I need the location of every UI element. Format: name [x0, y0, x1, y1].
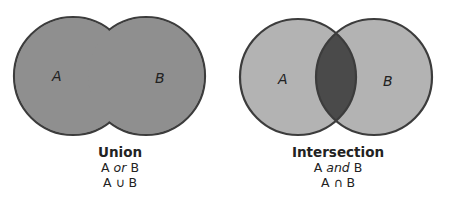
- union-phrase-left: A: [101, 160, 110, 175]
- intersection-phrase-connector: and: [326, 160, 350, 175]
- intersection-diagram: [240, 19, 432, 135]
- union-diagram: [14, 17, 205, 135]
- intersection-caption: Intersection A and B A ∩ B: [276, 145, 400, 190]
- intersection-set-b-label: B: [383, 73, 393, 89]
- union-caption: Union A or B A ∪ B: [60, 145, 180, 190]
- union-phrase-connector: or: [114, 160, 127, 175]
- intersection-phrase-left: A: [314, 160, 323, 175]
- intersection-phrase-right: B: [354, 160, 363, 175]
- intersection-set-a-label: A: [278, 71, 288, 87]
- union-phrase-right: B: [130, 160, 139, 175]
- intersection-title: Intersection: [276, 145, 400, 160]
- union-set-b-label: B: [155, 70, 165, 86]
- union-set-a-label: A: [52, 68, 62, 84]
- intersection-notation: A ∩ B: [276, 175, 400, 190]
- union-phrase: A or B: [60, 160, 180, 175]
- union-notation: A ∪ B: [60, 175, 180, 190]
- intersection-phrase: A and B: [276, 160, 400, 175]
- union-title: Union: [60, 145, 180, 160]
- union-fill-b: [88, 18, 204, 134]
